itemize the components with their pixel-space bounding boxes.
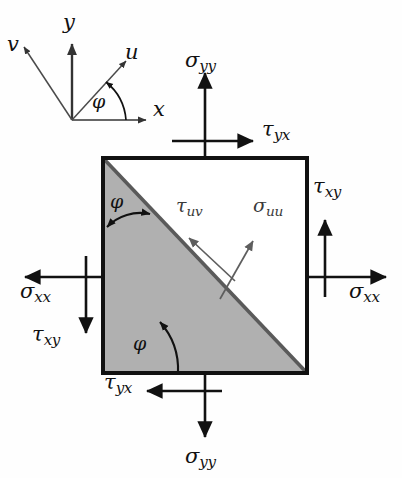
sigma-yy-top-sub: yy [199, 57, 215, 75]
tau-yx-bottom-base: τ [104, 370, 116, 394]
sigma-xx-left-sub: xx [34, 288, 50, 306]
axis-label-y: y [63, 12, 75, 33]
sigma-xx-right-sub: xx [363, 288, 379, 306]
sigma-yy-bottom-sub: yy [199, 453, 215, 471]
stress-element-figure: y v u x φ σyy τyx τxy σxx σxx τxy τyx σy… [0, 0, 402, 478]
tau-yx-top-label: τyx [262, 119, 290, 143]
sigma-xx-right-label: σxx [349, 281, 380, 305]
tau-yx-bottom-label: τyx [104, 372, 132, 396]
tau-yx-top-base: τ [262, 117, 274, 141]
tau-yx-bottom-sub: yx [116, 379, 132, 397]
tau-uv-label: τuv [176, 196, 203, 219]
axis-label-x: x [153, 99, 165, 120]
upper-phi-label: φ [110, 192, 123, 211]
tau-xy-left-sub: xy [44, 331, 60, 349]
v-axis-arrow [24, 47, 72, 120]
sigma-yy-bottom-label: σyy [185, 446, 216, 470]
sigma-uu-sub: uu [266, 203, 283, 219]
tau-xy-left-label: τxy [32, 324, 60, 348]
axis-label-v: v [7, 34, 19, 55]
sigma-yy-top-base: σ [185, 48, 199, 72]
tau-xy-left-base: τ [32, 322, 44, 346]
tau-uv-base: τ [176, 194, 187, 216]
sigma-yy-top-label: σyy [185, 50, 216, 74]
tau-xy-right-label: τxy [313, 176, 341, 200]
sigma-xx-left-label: σxx [20, 281, 51, 305]
sigma-uu-base: σ [253, 194, 266, 216]
sigma-uu-label: σuu [253, 196, 283, 219]
bottom-face-tractions [147, 373, 222, 437]
axes-phi-arc [106, 82, 126, 120]
lower-phi-label: φ [133, 334, 146, 353]
sigma-xx-right-base: σ [349, 279, 363, 303]
tau-xy-right-base: τ [313, 174, 325, 198]
sigma-yy-bottom-base: σ [185, 444, 199, 468]
sigma-xx-left-base: σ [20, 279, 34, 303]
tau-uv-sub: uv [187, 203, 203, 219]
top-face-tractions [172, 73, 253, 158]
axes-phi-label: φ [92, 92, 105, 111]
tau-yx-top-sub: yx [274, 126, 290, 144]
tau-xy-right-sub: xy [325, 183, 341, 201]
axis-label-u: u [125, 42, 139, 63]
